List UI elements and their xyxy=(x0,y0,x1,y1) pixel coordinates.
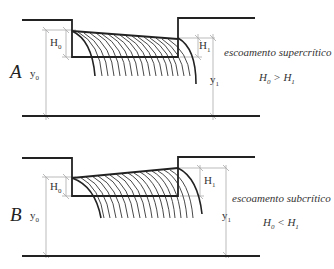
h1-text: H xyxy=(199,39,207,51)
panel-b-y0-label: y0 xyxy=(30,209,39,224)
panel-a-relation: H0 > H1 xyxy=(259,71,295,86)
panel-b-drawing xyxy=(22,157,260,258)
h0-sub: 0 xyxy=(58,187,62,195)
panel-b-h0-label: H0 xyxy=(50,180,61,195)
h0-text: H xyxy=(50,36,58,48)
y1-sub: 1 xyxy=(228,216,232,224)
panel-a-flow-type: escoamento supercrítico xyxy=(224,46,331,58)
panel-b-flow-type: escoamento subcrítico xyxy=(232,192,331,204)
panel-a-h1-label: H1 xyxy=(199,39,210,54)
panel-a-letter: A xyxy=(10,61,22,83)
h0-text: H xyxy=(50,180,58,192)
y1-sub: 1 xyxy=(216,80,220,88)
panel-a-h0-label: H0 xyxy=(50,36,61,51)
panel-a-y0-label: y0 xyxy=(30,67,39,82)
rel-op: < xyxy=(274,216,287,228)
h1-sub: 1 xyxy=(207,46,211,54)
rel-left: H xyxy=(259,71,267,83)
panel-b-y1-label: y1 xyxy=(222,209,231,224)
rel-left: H xyxy=(263,216,271,228)
panel-b-letter: B xyxy=(10,204,22,226)
rel-right-sub: 1 xyxy=(295,223,299,231)
h0-sub: 0 xyxy=(58,43,62,51)
panel-b-h1-label: H1 xyxy=(204,174,215,189)
rel-right-sub: 1 xyxy=(291,78,295,86)
h1-sub: 1 xyxy=(212,181,216,189)
panel-b-geometry xyxy=(22,157,260,256)
panel-a-geometry xyxy=(22,18,260,116)
panel-b-relation: H0 < H1 xyxy=(263,216,299,231)
rel-op: > xyxy=(270,71,283,83)
panel-a-drawing xyxy=(22,18,260,120)
h1-text: H xyxy=(204,174,212,186)
panel-a-y1-label: y1 xyxy=(210,73,219,88)
y0-sub: 0 xyxy=(36,74,40,82)
y0-sub: 0 xyxy=(36,216,40,224)
panel-b-arcs xyxy=(80,170,193,218)
